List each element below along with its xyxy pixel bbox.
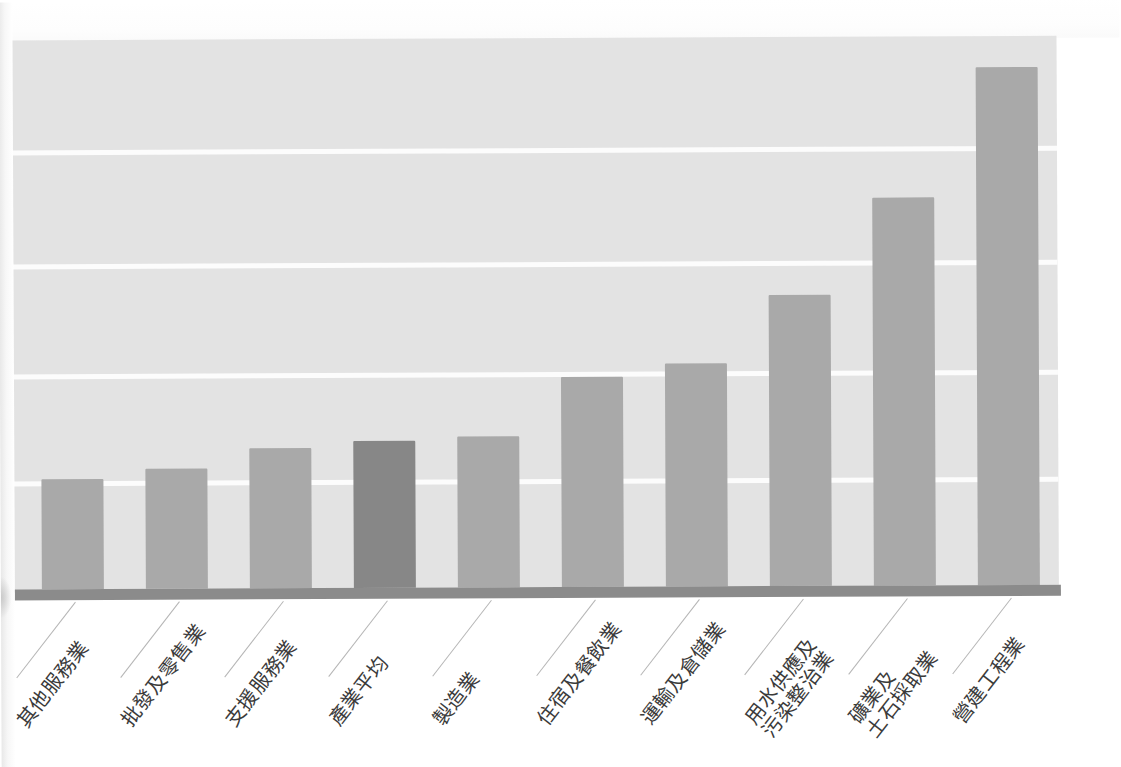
category-label-line: 運輸及倉儲業	[637, 618, 729, 728]
category-label-line: 營建工程業	[949, 633, 1029, 727]
category-label-line: 其他服務業	[13, 637, 93, 731]
plot-area	[7, 36, 1059, 590]
category-label-group: 其他服務業批發及零售業支援服務業產業平均製造業住宿及餐飲業運輸及倉儲業用水供應及…	[1, 596, 1121, 767]
category-label-3: 支援服務業	[221, 636, 301, 730]
bar-3[interactable]	[249, 448, 312, 588]
category-label-6: 住宿及餐飲業	[533, 619, 625, 729]
category-label-line: 產業平均	[325, 652, 392, 730]
bar-1[interactable]	[41, 479, 103, 589]
bar-4[interactable]	[353, 441, 416, 588]
category-label-10: 營建工程業	[949, 633, 1029, 727]
category-label-1: 其他服務業	[13, 637, 93, 731]
bar-10[interactable]	[976, 67, 1040, 585]
bar-2[interactable]	[145, 469, 208, 589]
bar-7[interactable]	[665, 363, 728, 586]
leader-line-5	[432, 600, 492, 677]
bar-6[interactable]	[561, 377, 624, 587]
category-label-line: 住宿及餐飲業	[533, 619, 625, 729]
bar-5[interactable]	[457, 436, 520, 587]
category-label-2: 批發及零售業	[117, 621, 209, 731]
bar-group	[7, 36, 1059, 590]
category-label-4: 產業平均	[325, 652, 392, 730]
category-label-7: 運輸及倉儲業	[637, 618, 729, 728]
category-label-5: 製造業	[429, 668, 484, 730]
category-label-line: 支援服務業	[221, 636, 301, 730]
category-label-9: 礦業及土石採取業	[845, 634, 942, 741]
chart-figure: 其他服務業批發及零售業支援服務業產業平均製造業住宿及餐飲業運輸及倉儲業用水供應及…	[0, 0, 1121, 767]
category-label-line: 批發及零售業	[117, 621, 209, 731]
category-label-line: 製造業	[429, 668, 484, 730]
category-label-8: 用水供應及污染整治業	[741, 634, 838, 741]
bar-8[interactable]	[769, 295, 832, 586]
bar-9[interactable]	[872, 197, 936, 585]
